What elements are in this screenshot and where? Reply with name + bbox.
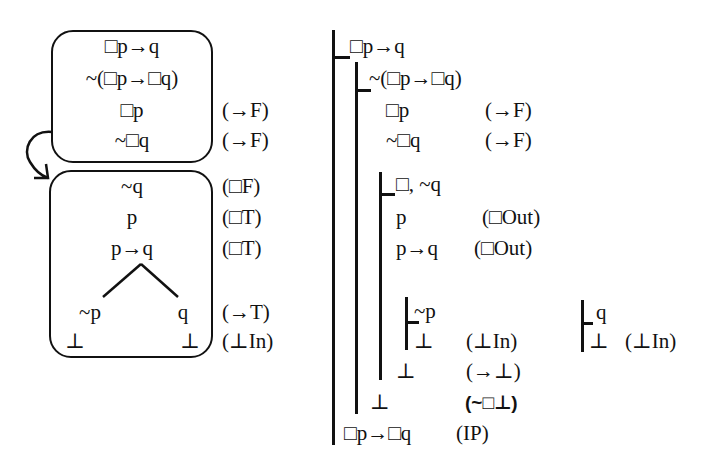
branch-left-closure: ⊥: [65, 329, 85, 353]
branch-right-line: [141, 264, 178, 297]
box-subproof-bar: [379, 193, 395, 196]
assumption: ~(□p→□q): [369, 66, 462, 90]
outer-bottom-rule: (~□⊥): [465, 391, 518, 415]
step3-rule: (→F): [485, 98, 532, 122]
outer-bottom: ⊥: [370, 390, 390, 414]
proof-line-main: [332, 30, 335, 445]
branch-justification: (→T): [222, 300, 270, 324]
premise-bar: [332, 56, 350, 59]
w1-line-4: ~□q: [115, 128, 150, 152]
case-left-rule: (⊥In): [466, 329, 517, 353]
conclusion-rule: (IP): [456, 421, 489, 445]
box-step2-formula: p→q: [396, 236, 438, 260]
branch-left-line: [103, 264, 141, 297]
w1-line-2: ~(□p→□q): [86, 66, 179, 90]
w2-just-3: (□T): [222, 236, 262, 260]
w1-just-3: (→F): [222, 98, 269, 122]
premise: □p→q: [350, 34, 405, 58]
case-left-bottom: ⊥: [414, 329, 434, 353]
branch-right-formula: q: [178, 300, 189, 324]
conclusion-formula: □p→□q: [344, 421, 411, 445]
closure-justification: (⊥In): [222, 329, 273, 353]
proof-line-ip: [355, 62, 358, 414]
step4-formula: ~□q: [386, 128, 421, 152]
case-right-bottom: ⊥: [589, 329, 609, 353]
w2-just-2: (□T): [222, 205, 262, 229]
w1-just-4: (→F): [222, 128, 269, 152]
w1-line-3: □p: [120, 98, 143, 122]
w2-line-1: ~q: [121, 174, 143, 198]
w2-line-2: p: [127, 205, 138, 229]
proof-line-case-right: [581, 300, 584, 352]
case-left-assumption: ~p: [414, 299, 436, 323]
proof-line-case-left: [405, 297, 408, 350]
case-right-rule: (⊥In): [625, 329, 676, 353]
box-step1-formula: p: [396, 205, 407, 229]
branch-left-formula: ~p: [79, 300, 101, 324]
w2-just-1: (□F): [222, 174, 260, 198]
box-step1-rule: (□Out): [482, 205, 540, 229]
step3-formula: □p: [386, 98, 409, 122]
w1-line-1: □p→q: [105, 34, 160, 58]
box-subproof-head: □, ~q: [396, 172, 441, 196]
proof-line-box: [379, 172, 382, 380]
step4-rule: (→F): [485, 128, 532, 152]
branch-right-closure: ⊥: [180, 329, 200, 353]
box-step2-rule: (□Out): [474, 236, 532, 260]
box-bottom: ⊥: [396, 359, 416, 383]
case-right-assumption: q: [596, 300, 607, 324]
w2-line-3: p→q: [111, 236, 153, 260]
case-right-bar: [581, 322, 593, 325]
box-bottom-rule: (→⊥): [466, 359, 521, 383]
